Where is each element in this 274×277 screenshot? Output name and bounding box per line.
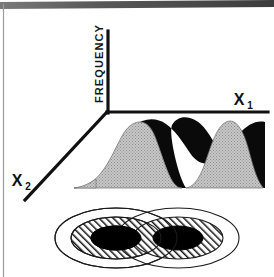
bimodal-distribution-figure: FREQUENCY X 1 X 2 <box>0 0 274 277</box>
x1-axis-label-subscript: 1 <box>247 100 253 111</box>
frequency-axis-label: FREQUENCY <box>93 24 105 103</box>
x1-axis-label-letter: X <box>234 91 245 108</box>
x2-axis-label-letter: X <box>12 172 23 189</box>
figure-root: FREQUENCY X 1 X 2 <box>0 0 274 277</box>
x2-axis-label-subscript: 2 <box>25 181 31 192</box>
contour-ring-core-left-overstroke <box>91 226 141 250</box>
